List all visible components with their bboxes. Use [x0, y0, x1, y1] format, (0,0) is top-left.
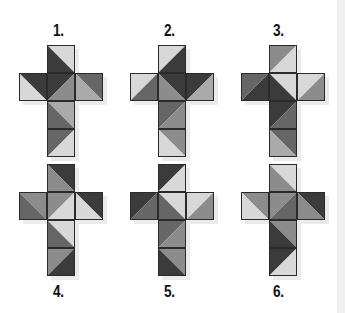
cube-net-6[interactable] [241, 164, 325, 276]
diagonal-split-icon [298, 193, 324, 219]
net-face-top [158, 45, 186, 73]
net-face-right [75, 192, 103, 220]
diagonal-split-icon [48, 249, 74, 275]
net-face-right [75, 73, 103, 101]
diagonal-split-icon [298, 74, 324, 100]
diagonal-split-icon [159, 249, 185, 275]
net-face-top [269, 45, 297, 73]
diagonal-split-icon [187, 193, 213, 219]
net-face-right [297, 192, 325, 220]
net-face-top [269, 164, 297, 192]
net-label-5: 5. [164, 282, 175, 302]
net-face-top [47, 164, 75, 192]
diagonal-split-icon [270, 102, 296, 128]
net-face-center [269, 73, 297, 101]
net-face-left [19, 192, 47, 220]
diagonal-split-icon [48, 193, 74, 219]
net-face-left [241, 192, 269, 220]
net-face-left [241, 73, 269, 101]
diagonal-split-icon [159, 165, 185, 191]
net-face-below2 [269, 248, 297, 276]
diagonal-split-icon [48, 102, 74, 128]
diagonal-split-icon [270, 46, 296, 72]
net-face-center [158, 192, 186, 220]
diagonal-split-icon [76, 193, 102, 219]
diagonal-split-icon [48, 165, 74, 191]
diagonal-split-icon [270, 165, 296, 191]
net-face-below2 [158, 129, 186, 157]
net-face-below2 [158, 248, 186, 276]
cube-net-3[interactable] [241, 45, 325, 157]
cube-net-5[interactable] [130, 164, 214, 276]
net-face-left [19, 73, 47, 101]
diagonal-split-icon [159, 102, 185, 128]
net-face-below2 [47, 129, 75, 157]
diagonal-split-icon [76, 74, 102, 100]
diagonal-split-icon [48, 221, 74, 247]
diagonal-split-icon [159, 193, 185, 219]
diagonal-split-icon [159, 221, 185, 247]
diagonal-split-icon [270, 130, 296, 156]
diagonal-split-icon [187, 74, 213, 100]
net-face-center [158, 73, 186, 101]
net-face-below1 [47, 220, 75, 248]
net-face-top [47, 45, 75, 73]
net-face-center [47, 192, 75, 220]
net-face-below1 [269, 101, 297, 129]
net-face-right [297, 73, 325, 101]
diagonal-split-icon [131, 193, 157, 219]
net-face-left [130, 192, 158, 220]
page-edge-strip [337, 0, 345, 313]
diagonal-split-icon [159, 74, 185, 100]
net-label-4: 4. [53, 282, 64, 302]
diagonal-split-icon [48, 74, 74, 100]
diagonal-split-icon [48, 130, 74, 156]
net-face-top [158, 164, 186, 192]
net-face-center [47, 73, 75, 101]
net-face-below1 [47, 101, 75, 129]
diagonal-split-icon [48, 46, 74, 72]
net-face-right [186, 73, 214, 101]
diagonal-split-icon [270, 221, 296, 247]
net-face-center [269, 192, 297, 220]
net-face-below2 [47, 248, 75, 276]
diagonal-split-icon [270, 74, 296, 100]
diagonal-split-icon [131, 74, 157, 100]
diagonal-split-icon [270, 249, 296, 275]
net-face-below2 [269, 129, 297, 157]
net-face-right [186, 192, 214, 220]
net-face-below1 [158, 220, 186, 248]
diagonal-split-icon [242, 193, 268, 219]
diagonal-split-icon [20, 74, 46, 100]
net-face-below1 [158, 101, 186, 129]
diagonal-split-icon [159, 130, 185, 156]
cube-net-2[interactable] [130, 45, 214, 157]
net-label-2: 2. [164, 21, 175, 41]
diagonal-split-icon [270, 193, 296, 219]
net-label-1: 1. [53, 21, 64, 41]
net-face-below1 [269, 220, 297, 248]
net-face-left [130, 73, 158, 101]
diagonal-split-icon [159, 46, 185, 72]
diagonal-split-icon [242, 74, 268, 100]
net-label-6: 6. [273, 282, 284, 302]
cube-net-1[interactable] [19, 45, 103, 157]
net-label-3: 3. [273, 21, 284, 41]
diagonal-split-icon [20, 193, 46, 219]
cube-net-4[interactable] [19, 164, 103, 276]
